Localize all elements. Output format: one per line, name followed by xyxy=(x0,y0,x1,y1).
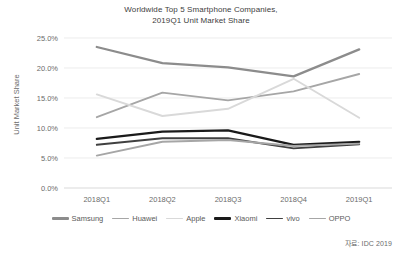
series-line-oppo xyxy=(97,140,359,156)
legend-item-apple[interactable]: Apple xyxy=(166,214,205,223)
chart-figure: Worldwide Top 5 Smartphone Companies, 20… xyxy=(0,0,402,260)
line-chart-plot: 0.0%5.0%10.0%15.0%20.0%25.0%2018Q12018Q2… xyxy=(0,0,402,212)
chart-legend: SamsungHuaweiAppleXiaomivivoOPPO xyxy=(0,214,402,223)
legend-swatch-vivo xyxy=(266,218,283,220)
legend-swatch-samsung xyxy=(52,217,69,219)
series-line-huawei xyxy=(97,74,359,117)
x-tick-label: 2018Q4 xyxy=(280,195,307,204)
source-note: 자료: IDC 2019 xyxy=(345,238,392,248)
legend-item-xiaomi[interactable]: Xiaomi xyxy=(214,214,257,223)
legend-swatch-apple xyxy=(166,218,183,220)
x-tick-label: 2018Q3 xyxy=(215,195,242,204)
legend-swatch-huawei xyxy=(112,218,129,220)
series-line-samsung xyxy=(97,47,359,76)
legend-item-huawei[interactable]: Huawei xyxy=(112,214,157,223)
y-tick-label: 10.0% xyxy=(37,124,59,133)
y-tick-label: 5.0% xyxy=(41,154,58,163)
y-tick-label: 20.0% xyxy=(37,64,59,73)
legend-label: Huawei xyxy=(132,214,157,223)
legend-label: Samsung xyxy=(72,214,104,223)
x-tick-label: 2018Q2 xyxy=(149,195,176,204)
legend-label: Apple xyxy=(186,214,205,223)
y-tick-label: 0.0% xyxy=(41,184,58,193)
legend-label: Xiaomi xyxy=(234,214,257,223)
x-tick-label: 2018Q1 xyxy=(83,195,110,204)
legend-swatch-oppo xyxy=(309,218,326,220)
y-tick-label: 15.0% xyxy=(37,94,59,103)
x-tick-label: 2019Q1 xyxy=(346,195,373,204)
y-tick-label: 25.0% xyxy=(37,34,59,43)
legend-label: vivo xyxy=(286,214,299,223)
legend-item-oppo[interactable]: OPPO xyxy=(309,214,351,223)
legend-swatch-xiaomi xyxy=(214,217,231,219)
legend-item-samsung[interactable]: Samsung xyxy=(52,214,104,223)
legend-item-vivo[interactable]: vivo xyxy=(266,214,299,223)
legend-label: OPPO xyxy=(329,214,351,223)
